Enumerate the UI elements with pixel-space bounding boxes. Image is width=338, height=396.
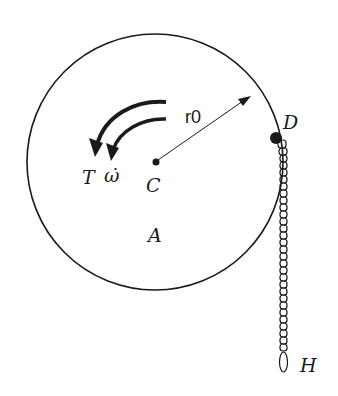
center-label: C (146, 176, 161, 195)
torque-arrow-icon (97, 102, 166, 145)
radius-line (158, 99, 246, 160)
chain-end-label: H (300, 356, 317, 375)
torque-label: T (82, 168, 95, 187)
angular-accel-arrow-icon (113, 119, 166, 150)
diagram-canvas (0, 0, 338, 396)
angular-accel-label: ω̇ (104, 166, 120, 185)
radius-label: r0 (185, 108, 201, 126)
angular-accel-arrowhead (106, 143, 119, 161)
torque-arrowhead (89, 138, 103, 157)
point-d-knob (270, 132, 282, 144)
point-d-label: D (283, 113, 298, 132)
radius-arrowhead (238, 96, 251, 106)
body-label: A (148, 226, 162, 245)
